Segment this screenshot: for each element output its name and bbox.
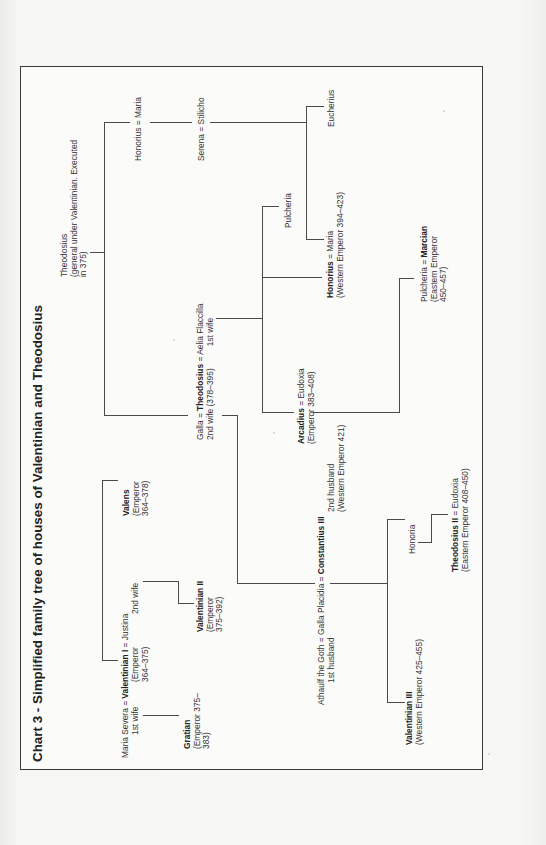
connector-line xyxy=(102,480,118,481)
reign-detail: (Emperor 383–408) xyxy=(307,368,317,444)
reign-detail: 450–457) xyxy=(439,226,449,302)
marriage-sign: = xyxy=(195,355,205,364)
person-name: Eudoxia xyxy=(296,368,306,398)
reign-detail: 364–375) xyxy=(141,647,151,682)
connector-line xyxy=(306,239,324,240)
node-theodosius-great: Galla = Theodosius = Aelia Flaccilla 2nd… xyxy=(196,304,215,440)
connector-line xyxy=(262,412,294,413)
connector-line xyxy=(237,415,238,583)
reign-detail: 383) xyxy=(202,693,212,749)
scan-speck xyxy=(488,753,490,755)
person-name: Honoria xyxy=(407,525,417,554)
connector-line xyxy=(210,122,306,123)
person-name: Marcian xyxy=(419,226,429,258)
marriage-sign: = xyxy=(133,118,143,128)
person-name: Theodosius II xyxy=(450,518,460,572)
marriage-sign: = xyxy=(120,640,130,650)
connector-line xyxy=(399,278,414,279)
person-name: Valentinian I xyxy=(120,650,130,699)
marriage-sign: = xyxy=(316,635,326,645)
person-name: Theodosius xyxy=(195,364,205,411)
connector-line xyxy=(178,603,194,604)
reign-detail: 364–378) xyxy=(141,481,151,516)
connector-line xyxy=(102,480,103,660)
person-name: Pulcheria xyxy=(419,267,429,302)
node-pulcheria-marcian: Pulcheria = Marcian (Eastern Emperor 450… xyxy=(420,226,449,302)
person-name: Athaulf the Goth xyxy=(316,644,326,705)
person-name: Justina xyxy=(120,614,130,641)
person-name: Eucherius xyxy=(326,90,336,127)
scan-speck xyxy=(173,339,175,341)
marriage-sign: = xyxy=(316,574,326,584)
scan-speck xyxy=(443,110,445,112)
person-name: Galla Placidia xyxy=(316,584,326,635)
node-honoria: Honoria xyxy=(408,525,418,554)
connector-line xyxy=(178,581,179,604)
connector-line xyxy=(262,277,322,278)
node-valentinian-i: Maria Severa = Valentinian I = Justina xyxy=(121,614,131,758)
marriage-sign: = xyxy=(325,252,335,262)
connector-line xyxy=(431,514,448,515)
node-valentinian-ii: Valentinian II (Emperor 375–392) xyxy=(196,581,225,632)
connector-line xyxy=(399,278,400,413)
chart-title: Chart 3 - Simplified family tree of hous… xyxy=(30,305,45,762)
person-name: Maria xyxy=(325,231,335,252)
connector-line xyxy=(104,122,130,123)
marriage-sign: = xyxy=(196,124,206,134)
node-theodosius-elder: Theodosius (general under Valentinian. E… xyxy=(60,140,89,277)
reign-detail: 375–392) xyxy=(215,581,225,632)
spouse-detail: 1st wife xyxy=(205,318,215,346)
reign-detail: (Eastern Emperor 408–450) xyxy=(461,468,471,572)
connector-line xyxy=(104,122,105,415)
reign-detail: (Western Emperor 425–455) xyxy=(415,639,425,745)
marriage-sign: = xyxy=(296,399,306,409)
spouse-detail: 2nd wife (378–395) xyxy=(205,368,215,440)
node-gratian: Gratian (Emperor 375– 383) xyxy=(183,693,212,749)
node-detail: in 375) xyxy=(79,140,89,277)
person-name: Maria xyxy=(133,97,143,118)
connector-line xyxy=(262,206,279,207)
node-eucherius: Eucherius xyxy=(327,90,337,127)
connector-line xyxy=(262,206,263,413)
node-arcadius: Arcadius = Eudoxia (Emperor 383–408) xyxy=(297,368,316,444)
person-name: Serena xyxy=(196,134,206,161)
person-name: Pulcheria xyxy=(283,193,293,228)
marriage-sign: = xyxy=(120,699,130,709)
connector-line xyxy=(90,252,104,253)
node-honorius-emperor: Honorius = Maria (Western Emperor 394–42… xyxy=(326,192,345,298)
connector-line xyxy=(143,581,178,582)
connector-line xyxy=(143,715,179,716)
marriage-sign: = xyxy=(195,411,205,421)
reign-detail-valentinian-i: (Emperor 364–375) xyxy=(131,647,150,682)
connector-line xyxy=(306,106,324,107)
marriage-sign: = xyxy=(419,258,429,268)
spouse-detail-athaulf: 1st husband xyxy=(327,637,337,683)
connector-line xyxy=(306,106,307,240)
node-serena-stilicho: Serena = Stilicho xyxy=(197,97,207,161)
connector-line xyxy=(387,519,405,520)
connector-line xyxy=(237,583,315,584)
person-name: Eudoxia xyxy=(450,478,460,508)
spouse-detail-constantius: 2nd husband (Western Emperor 421) xyxy=(327,425,346,512)
connector-line xyxy=(150,122,192,123)
person-name: Arcadius xyxy=(296,408,306,444)
connector-line xyxy=(387,519,388,703)
connector-line xyxy=(330,583,387,584)
node-theodosius-ii: Theodosius II = Eudoxia (Eastern Emperor… xyxy=(451,468,470,572)
person-name: Aelia Flaccilla xyxy=(195,304,205,355)
node-honorius-maria-elder: Honorius = Maria xyxy=(134,97,144,161)
reign-detail: (Western Emperor 394–423) xyxy=(336,192,346,298)
connector-line xyxy=(418,542,431,543)
connector-line xyxy=(387,702,405,703)
person-name: Maria Severa xyxy=(120,708,130,758)
person-name: Honorius xyxy=(325,261,335,298)
person-name: Constantius III xyxy=(316,516,326,574)
connector-line xyxy=(104,415,188,416)
scan-speck xyxy=(273,432,275,434)
connector-line xyxy=(222,415,237,416)
connector-line xyxy=(431,514,432,543)
node-valentinian-iii: Valentinian III (Western Emperor 425–455… xyxy=(405,639,424,745)
marriage-sign: = xyxy=(450,508,460,518)
spouse-detail-justina: 2nd wife xyxy=(131,583,141,614)
spouse-detail-maria-severa: 1st wife xyxy=(131,707,141,735)
